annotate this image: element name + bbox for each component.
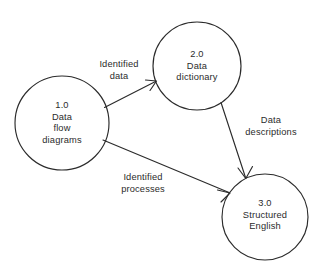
process-label-1-0-line-3: flow xyxy=(42,123,81,135)
process-label-1-0: 1.0 Data flow diagrams xyxy=(42,100,81,146)
flow-label-data-descriptions-line-1: Data xyxy=(245,115,296,127)
flow-label-identified-data: Identified data xyxy=(99,59,138,82)
process-label-2-0-line-2: Data xyxy=(176,60,217,72)
flow-label-data-descriptions: Data descriptions xyxy=(245,115,296,138)
flow-label-identified-data-line-1: Identified xyxy=(99,59,138,71)
process-label-1-0-line-2: Data xyxy=(42,111,81,123)
process-label-3-0-line-1: 3.0 xyxy=(243,198,287,210)
process-label-2-0-line-1: 2.0 xyxy=(176,49,217,61)
flow-label-identified-processes: Identified processes xyxy=(121,172,165,195)
flow-label-data-descriptions-line-2: descriptions xyxy=(245,127,296,139)
process-label-1-0-line-1: 1.0 xyxy=(42,100,81,112)
process-label-3-0: 3.0 Structured English xyxy=(243,198,287,233)
process-label-2-0-line-3: dictionary xyxy=(176,72,217,84)
process-label-3-0-line-3: English xyxy=(243,221,287,233)
flow-label-identified-processes-line-2: processes xyxy=(121,184,165,196)
process-label-1-0-line-4: diagrams xyxy=(42,135,81,147)
flow-label-identified-data-line-2: data xyxy=(99,71,138,83)
data-flow-diagram-canvas: 1.0 Data flow diagrams 2.0 Data dictiona… xyxy=(0,0,323,273)
flow-arrow-identified-data[interactable] xyxy=(105,80,157,108)
flow-label-identified-processes-line-1: Identified xyxy=(121,172,165,184)
flow-line-identified-data xyxy=(105,82,156,108)
process-label-3-0-line-2: Structured xyxy=(243,209,287,221)
flow-line-data-descriptions xyxy=(221,103,246,178)
flow-arrow-data-descriptions[interactable] xyxy=(221,103,253,179)
process-label-2-0: 2.0 Data dictionary xyxy=(176,49,217,84)
